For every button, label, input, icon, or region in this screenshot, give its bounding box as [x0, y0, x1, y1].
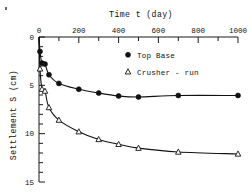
legend-marker-icon	[126, 52, 131, 57]
data-point-marker	[46, 72, 51, 77]
x-axis-tick-label: 400	[112, 27, 126, 35]
data-point-marker	[76, 87, 81, 92]
y-axis: 051015	[25, 34, 45, 187]
data-point-marker	[236, 93, 241, 98]
data-point-marker	[37, 66, 43, 71]
y-axis-label: Settlement S (cm)	[9, 70, 18, 160]
series-line	[39, 37, 238, 97]
y-axis-tick-label: 0	[29, 34, 34, 42]
data-point-marker	[176, 93, 181, 98]
settlement-vs-time-chart: Time t (day) Settlement S (cm) 020040060…	[0, 0, 251, 196]
x-axis: 02004006008001000	[37, 27, 248, 43]
chart-legend: Top BaseCrusher - run	[125, 52, 199, 77]
data-point-marker	[46, 105, 52, 110]
chart-title-group: Time t (day)	[109, 10, 173, 19]
data-point-marker	[37, 49, 42, 54]
data-point-marker	[136, 94, 141, 99]
x-axis-tick-label: 1000	[229, 27, 248, 35]
data-point-marker	[42, 62, 47, 67]
y-axis-tick-label: 10	[25, 130, 35, 138]
data-point-marker	[116, 93, 121, 98]
legend-item-label: Crusher - run	[137, 69, 199, 77]
y-axis-tick-label: 5	[29, 82, 34, 90]
legend-item-label: Top Base	[137, 52, 175, 60]
legend-item: Crusher - run	[125, 69, 199, 77]
x-axis-tick-label: 800	[191, 27, 205, 35]
data-point-marker	[96, 91, 101, 96]
y-axis-tick-label: 15	[25, 179, 35, 187]
x-axis-tick-label: 0	[37, 27, 42, 35]
x-axis-tick-label: 200	[72, 27, 86, 35]
y-axis-title-group: Settlement S (cm)	[9, 70, 18, 160]
data-point-marker	[56, 81, 61, 86]
x-axis-tick-label: 600	[152, 27, 166, 35]
legend-item: Top Base	[126, 52, 176, 60]
chart-figure: Time t (day) Settlement S (cm) 020040060…	[0, 0, 251, 196]
chart-title: Time t (day)	[109, 10, 173, 19]
legend-marker-icon	[125, 69, 131, 74]
